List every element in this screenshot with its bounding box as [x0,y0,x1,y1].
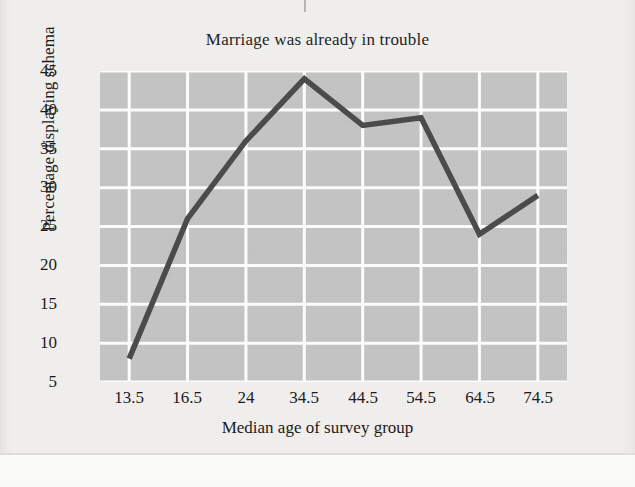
x-axis-tick-label: 54.5 [391,388,451,408]
page-bottom-margin [0,455,635,487]
x-axis-tick-label: 34.5 [274,388,334,408]
x-axis-tick-label: 64.5 [450,388,510,408]
x-axis-tick-label: 44.5 [333,388,393,408]
x-axis-title: Median age of survey group [0,418,635,438]
scan-artifact-mark [304,0,306,12]
x-axis-tick-label: 74.5 [508,388,568,408]
page-bottom-edge [0,453,635,455]
plot-area-wrapper [100,71,567,382]
y-axis-title: Percentage displaying schema [39,0,59,274]
data-line-series [100,71,567,382]
y-axis-tick-label: 5 [9,372,57,392]
x-axis-tick-label: 16.5 [157,388,217,408]
scanned-page: Marriage was already in trouble 45 40 35… [0,0,635,487]
x-axis-tick-label: 13.5 [99,388,159,408]
y-axis-tick-label: 10 [9,333,57,353]
y-axis-tick-label: 15 [9,294,57,314]
page-right-gutter [621,0,635,455]
chart-title: Marriage was already in trouble [0,30,635,50]
x-axis-tick-label: 24 [216,388,276,408]
